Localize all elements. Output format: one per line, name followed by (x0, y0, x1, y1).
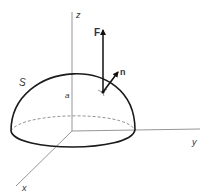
axes (16, 12, 200, 186)
base-ellipse-back (11, 116, 135, 131)
hemisphere-dome (11, 74, 135, 131)
surface-point (101, 90, 104, 93)
base-ellipse-front (11, 130, 135, 147)
normal-n-label: n (120, 67, 126, 77)
vector-f-label: F (94, 27, 100, 38)
normal-n-arrow (103, 72, 118, 92)
x-axis-label: x (21, 183, 27, 193)
x-axis (16, 131, 72, 186)
hemisphere-diagram: z y x S a F n (0, 0, 206, 195)
z-axis-label: z (75, 10, 81, 20)
y-axis-label: y (191, 137, 197, 147)
surface-label: S (19, 77, 26, 88)
radius-label: a (65, 91, 70, 100)
y-axis (72, 129, 200, 131)
